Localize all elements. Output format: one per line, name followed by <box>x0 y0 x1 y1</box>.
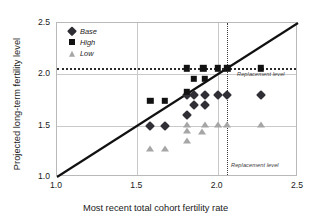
y-tick-label: 2.5 <box>30 17 50 27</box>
x-tick-label: 2.0 <box>211 180 223 190</box>
y-axis-label: Projected long-term fertility level <box>12 24 22 184</box>
legend-item-high: High <box>66 38 97 46</box>
triangle-marker-icon <box>66 50 77 58</box>
data-point-low <box>257 121 265 127</box>
data-point-low <box>183 127 191 133</box>
y-tick-label: 1.0 <box>30 171 50 181</box>
data-point-high <box>202 75 208 81</box>
x-tick-label: 1.5 <box>130 180 142 190</box>
data-point-low <box>223 121 231 127</box>
y-tick-label: 2.0 <box>30 68 50 78</box>
data-point-low <box>183 121 191 127</box>
data-point-high <box>161 98 167 104</box>
data-point-high <box>224 65 230 71</box>
data-point-high <box>258 65 264 71</box>
data-point-low <box>198 128 206 134</box>
data-point-low <box>146 146 154 152</box>
data-point-high <box>147 98 153 104</box>
data-point-high <box>214 65 220 71</box>
data-point-low <box>214 121 222 127</box>
fertility-scatter-figure: 1.0 1.5 2.0 2.5 1.0 1.5 2.0 2.5 Most rec… <box>0 0 311 224</box>
data-point-low <box>161 146 169 152</box>
legend-item-base: Base <box>66 27 97 35</box>
legend-label: High <box>80 38 95 47</box>
data-point-high <box>184 65 190 71</box>
x-tick-label: 1.0 <box>50 180 62 190</box>
legend: Base High Low <box>66 27 97 58</box>
data-point-high <box>190 75 196 81</box>
replacement-level-label-vertical: Replacement level <box>231 162 279 168</box>
legend-label: Base <box>80 27 97 36</box>
y-tick-label: 1.5 <box>30 120 50 130</box>
x-tick-label: 2.5 <box>291 180 303 190</box>
diamond-marker-icon <box>66 27 77 35</box>
x-axis-label: Most recent total cohort fertility rate <box>0 203 311 213</box>
legend-item-low: Low <box>66 50 97 58</box>
square-marker-icon <box>66 38 77 46</box>
data-point-low <box>201 121 209 127</box>
data-point-high <box>184 89 190 95</box>
legend-label: Low <box>80 49 94 58</box>
data-point-low <box>183 137 191 143</box>
replacement-level-label-horizontal: Replacement level <box>237 71 285 77</box>
data-point-high <box>200 65 206 71</box>
